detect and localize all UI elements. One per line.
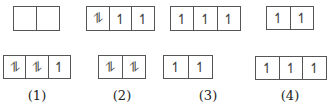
orbital-cell: ↿	[164, 56, 189, 78]
orbital-box-1-top	[13, 6, 60, 31]
orbital-box-3-bottom: ↿ ↿	[163, 55, 213, 79]
orbital-cell: ↿	[267, 7, 291, 29]
option-label-1: (1)	[28, 88, 46, 103]
orbital-box-3-top: ↿ ↿ ↿	[170, 6, 241, 31]
orbital-cell: ↿	[194, 7, 217, 30]
option-label-2: (2)	[113, 88, 131, 103]
orbital-cell: ↿	[110, 7, 133, 30]
orbital-cell: ↿	[189, 56, 213, 78]
option-label-3: (3)	[199, 88, 217, 103]
orbital-cell: ⥮	[123, 56, 146, 78]
orbital-cell: ↿	[49, 56, 70, 78]
orbital-box-4-top: ↿ ↿	[266, 6, 314, 30]
option-label-4: (4)	[281, 88, 299, 103]
orbital-cell: ↿	[171, 7, 194, 30]
orbital-cell: ↿	[256, 57, 280, 79]
orbital-cell: ⥮	[87, 7, 110, 30]
orbital-cell: ⥮	[26, 56, 48, 78]
orbital-cell	[37, 7, 59, 30]
orbital-cell: ↿	[291, 7, 314, 29]
orbital-box-1-bottom: ⥮ ⥮ ↿	[3, 55, 71, 79]
orbital-cell: ↿	[218, 7, 240, 30]
orbital-cell: ↿	[132, 7, 154, 30]
orbital-box-2-bottom: ⥮ ⥮	[98, 55, 146, 79]
orbital-cell: ⥮	[4, 56, 26, 78]
orbital-cell: ⥮	[99, 56, 123, 78]
orbital-box-2-top: ⥮ ↿ ↿	[86, 6, 155, 31]
orbital-box-4-bottom: ↿ ↿ ↿	[255, 56, 327, 80]
orbital-cell	[14, 7, 37, 30]
orbital-cell: ↿	[303, 57, 326, 79]
orbital-cell: ↿	[280, 57, 304, 79]
